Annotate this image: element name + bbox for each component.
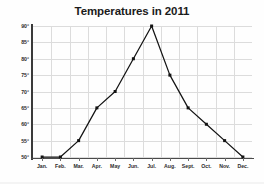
x-axis-tick-label: May bbox=[110, 163, 120, 169]
x-axis-tick-mark bbox=[115, 158, 116, 161]
chart-title: Temperatures in 2011 bbox=[0, 5, 264, 17]
x-axis-line bbox=[31, 158, 254, 159]
x-axis-tick-label: Mar. bbox=[73, 163, 83, 169]
plot-area bbox=[33, 26, 252, 157]
gridline-vertical bbox=[51, 26, 52, 157]
image-bottom-edge bbox=[0, 182, 264, 184]
y-axis-tick-label: 60° bbox=[3, 121, 29, 127]
x-axis-tick-label: Jan. bbox=[37, 163, 47, 169]
gridline-vertical bbox=[234, 26, 235, 157]
y-axis-tick-label: 85° bbox=[3, 39, 29, 45]
y-axis-tick-label: 80° bbox=[3, 56, 29, 62]
y-axis-tick-label: 70° bbox=[3, 89, 29, 95]
gridline-vertical bbox=[143, 26, 144, 157]
x-axis-tick-mark bbox=[170, 158, 171, 161]
x-axis-tick-label: Sept. bbox=[182, 163, 195, 169]
y-axis-tick-label: 50° bbox=[3, 154, 29, 160]
x-axis-tick-mark bbox=[152, 158, 153, 161]
gridline-vertical bbox=[197, 26, 198, 157]
y-axis-tick-labels: 90°85°80°75°70°65°60°55°50° bbox=[0, 0, 29, 184]
x-axis-tick-label: Oct. bbox=[201, 163, 211, 169]
y-axis-tick-label: 55° bbox=[3, 138, 29, 144]
y-axis-tick-label: 90° bbox=[3, 23, 29, 29]
x-axis-tick-mark bbox=[243, 158, 244, 161]
y-axis-line bbox=[31, 24, 33, 160]
x-axis-tick-label: Dec. bbox=[237, 163, 248, 169]
x-axis-tick-mark bbox=[97, 158, 98, 161]
gridline-vertical bbox=[88, 26, 89, 157]
y-axis-tick-label: 65° bbox=[3, 105, 29, 111]
temperature-line-chart: Temperatures in 2011 90°85°80°75°70°65°6… bbox=[0, 0, 264, 184]
y-axis-tick-label: 75° bbox=[3, 72, 29, 78]
x-axis-tick-label: Feb. bbox=[55, 163, 66, 169]
gridline-vertical bbox=[106, 26, 107, 157]
x-axis-tick-label: Apr. bbox=[92, 163, 102, 169]
gridline-vertical bbox=[179, 26, 180, 157]
x-axis-tick-label: Aug. bbox=[164, 163, 176, 169]
gridline-vertical bbox=[161, 26, 162, 157]
x-axis-tick-mark bbox=[60, 158, 61, 161]
x-axis-tick-label: Jul. bbox=[147, 163, 156, 169]
x-axis-tick-mark bbox=[42, 158, 43, 161]
gridline-vertical bbox=[216, 26, 217, 157]
x-axis-tick-mark bbox=[225, 158, 226, 161]
x-axis-tick-mark bbox=[79, 158, 80, 161]
x-axis-tick-mark bbox=[188, 158, 189, 161]
x-axis-tick-mark bbox=[133, 158, 134, 161]
gridline-vertical bbox=[124, 26, 125, 157]
x-axis-tick-label: Jun. bbox=[128, 163, 139, 169]
x-axis-tick-label: Nov. bbox=[219, 163, 230, 169]
x-axis-tick-mark bbox=[206, 158, 207, 161]
gridline-vertical bbox=[70, 26, 71, 157]
